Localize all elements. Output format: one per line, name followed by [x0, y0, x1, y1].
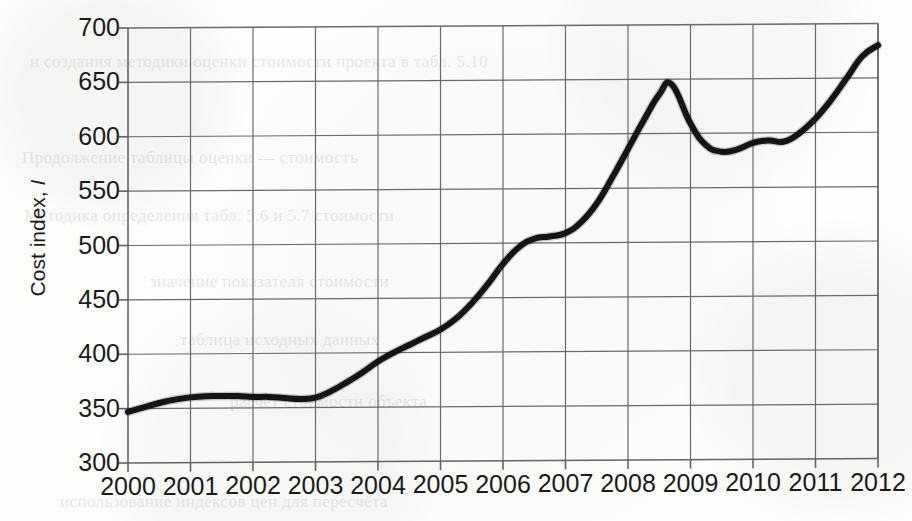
y-axis-title-symbol: I: [26, 180, 49, 186]
y-axis-title-text: Cost index,: [26, 191, 49, 296]
y-tick-label: 500: [48, 233, 120, 258]
y-tick-label: 400: [48, 341, 120, 366]
x-axis-tick-labels: 2000200120022003200420052006200720082009…: [128, 468, 878, 508]
y-axis-title: Cost index, I: [26, 108, 50, 368]
y-tick-label: 650: [48, 69, 120, 94]
chart-canvas: [0, 0, 912, 521]
y-tick-label: 350: [48, 396, 120, 421]
x-tick-label: 2012: [838, 470, 912, 495]
cost-index-chart-figure: 300350400450500550600650700 200020012002…: [0, 0, 912, 521]
y-tick-label: 550: [48, 178, 120, 203]
y-tick-label: 450: [48, 287, 120, 312]
y-tick-label: 700: [48, 15, 120, 40]
y-tick-label: 600: [48, 124, 120, 149]
